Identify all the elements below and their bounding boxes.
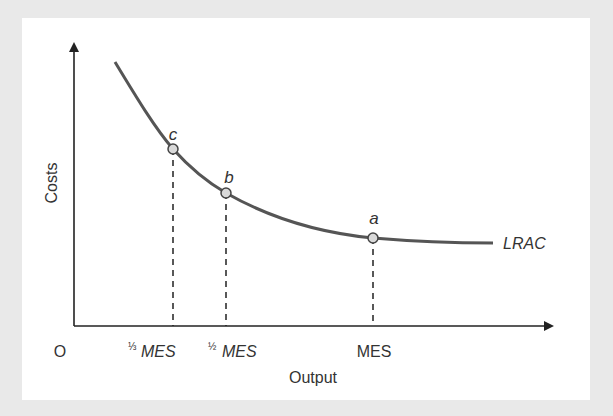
- point-label-b: b: [224, 168, 233, 187]
- point-a: [368, 233, 378, 243]
- point-c: [168, 144, 178, 154]
- curve-label-lrac: LRAC: [503, 235, 546, 252]
- tick-half-mes-text: MES: [222, 343, 257, 360]
- tick-half-mes: ½ MES: [208, 341, 257, 360]
- tick-third-mes: ⅓ MES: [128, 341, 176, 360]
- point-b: [221, 188, 231, 198]
- tick-third-fraction: ⅓: [128, 341, 137, 352]
- point-label-a: a: [369, 209, 378, 228]
- tick-third-mes-text: MES: [141, 343, 176, 360]
- tick-half-fraction: ½: [208, 341, 217, 352]
- lrac-diagram: c b a LRAC Costs Output O ⅓ MES ½ MES ME…: [0, 0, 613, 416]
- origin-label: O: [54, 343, 66, 360]
- x-axis-title: Output: [289, 369, 338, 386]
- tick-mes: MES: [357, 343, 392, 360]
- y-axis-title: Costs: [43, 163, 60, 204]
- point-label-c: c: [169, 125, 178, 144]
